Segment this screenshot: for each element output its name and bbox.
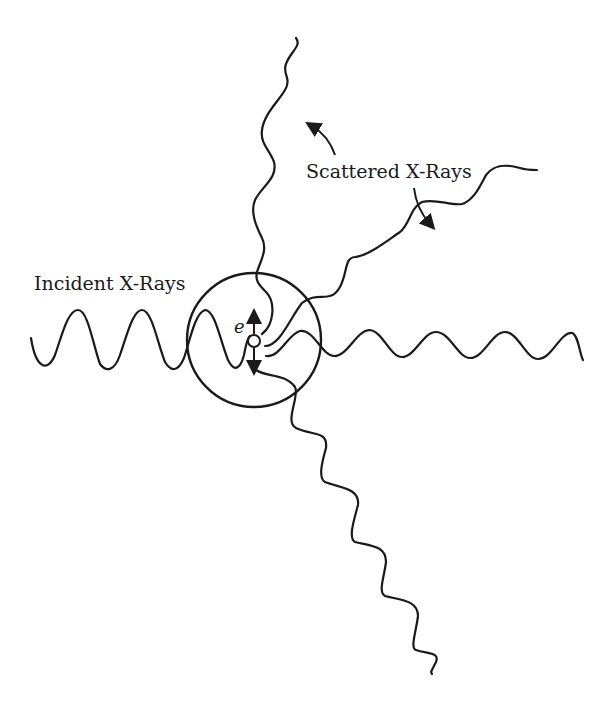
incident-wave	[31, 310, 250, 369]
pointer-arrow-up-icon	[312, 126, 335, 155]
x-ray-scattering-diagram: e Incident X-Rays Scattered X-Rays	[0, 0, 609, 709]
scattered-wave-right	[266, 330, 583, 360]
scattered-wave-up	[253, 38, 298, 334]
electron-icon	[248, 335, 260, 347]
incident-x-rays-label: Incident X-Rays	[34, 272, 186, 294]
scattered-wave-down	[254, 368, 437, 674]
scattered-x-rays-label: Scattered X-Rays	[306, 160, 472, 182]
scattered-wave-upper-right	[265, 166, 537, 346]
electron-label: e	[234, 316, 245, 337]
